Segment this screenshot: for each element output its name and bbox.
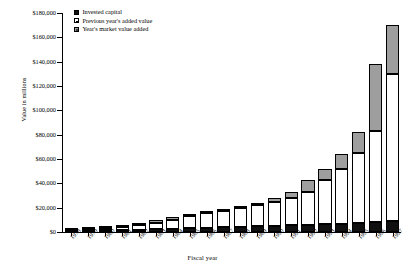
- y-axis-tick-label: $60,000: [4, 156, 56, 162]
- bar-segment-prev-1993: [318, 180, 331, 225]
- bar-1993: [318, 13, 331, 232]
- bar-segment-added-1996: [369, 64, 382, 131]
- bar-segment-prev-1989: [251, 205, 264, 226]
- bar-segment-invested-1980: [99, 230, 112, 232]
- bar-1986: [200, 13, 213, 232]
- y-axis-tick-label: $20,000: [4, 204, 56, 210]
- bar-1989: [251, 13, 264, 232]
- y-axis-tick-label: $40,000: [4, 180, 56, 186]
- bar-segment-invested-1986: [200, 228, 213, 232]
- legend-label: Invested capital: [82, 9, 122, 15]
- plot-area: [63, 13, 401, 232]
- y-axis-tick-label: $140,000: [4, 58, 56, 64]
- bar-segment-added-1995: [352, 132, 365, 153]
- bar-segment-added-1993: [318, 169, 331, 179]
- bar-1991: [285, 13, 298, 232]
- bar-segment-invested-1978: [65, 230, 78, 232]
- bar-segment-invested-1988: [234, 227, 247, 232]
- bar-segment-prev-1987: [217, 211, 230, 228]
- bar-segment-prev-1985: [183, 216, 196, 228]
- y-axis-tick-label: $180,000: [4, 10, 56, 16]
- x-axis-title: Fiscal year: [0, 254, 405, 261]
- bar-1992: [301, 13, 314, 232]
- bar-1980: [99, 13, 112, 232]
- bar-segment-invested-1994: [335, 224, 348, 232]
- bar-segment-invested-1993: [318, 224, 331, 232]
- bar-segment-invested-1984: [166, 229, 179, 232]
- y-axis-tick-label: $0: [4, 229, 56, 235]
- bar-1978: [65, 13, 78, 232]
- bar-segment-prev-1991: [285, 198, 298, 225]
- bar-1988: [234, 13, 247, 232]
- bar-segment-invested-1991: [285, 225, 298, 232]
- legend-swatch-added-icon: [74, 27, 79, 32]
- chart-legend: Invested capitalPrevious year's added va…: [74, 8, 152, 34]
- y-axis-tick-label: $160,000: [4, 34, 56, 40]
- bar-segment-invested-1990: [268, 226, 281, 232]
- legend-item-prev: Previous year's added value: [74, 17, 152, 26]
- legend-item-added: Year's market value added: [74, 25, 152, 34]
- bar-1994: [335, 13, 348, 232]
- bar-1982: [132, 13, 145, 232]
- bar-segment-added-1997: [386, 25, 399, 74]
- bar-segment-invested-1992: [301, 225, 314, 232]
- bar-1981: [116, 13, 129, 232]
- bar-segment-invested-1987: [217, 227, 230, 232]
- bar-segment-prev-1984: [166, 220, 179, 229]
- bar-1985: [183, 13, 196, 232]
- bar-1996: [369, 13, 382, 232]
- bar-segment-invested-1979: [82, 230, 95, 232]
- legend-swatch-invested-icon: [74, 10, 79, 15]
- bar-segment-invested-1989: [251, 226, 264, 232]
- bar-segment-prev-1994: [335, 169, 348, 224]
- bar-segment-prev-1995: [352, 153, 365, 223]
- y-axis-tick-label: $80,000: [4, 131, 56, 137]
- legend-item-invested: Invested capital: [74, 8, 152, 17]
- legend-label: Previous year's added value: [82, 18, 152, 24]
- bar-segment-added-1994: [335, 154, 348, 169]
- bar-segment-prev-1992: [301, 192, 314, 225]
- legend-label: Year's market value added: [82, 26, 148, 32]
- bar-segment-invested-1995: [352, 223, 365, 232]
- y-axis-tick-label: $120,000: [4, 83, 56, 89]
- bar-segment-invested-1985: [183, 228, 196, 232]
- bar-segment-invested-1981: [116, 230, 129, 232]
- bar-1987: [217, 13, 230, 232]
- bar-segment-added-1992: [301, 180, 314, 191]
- legend-swatch-prev-icon: [74, 18, 79, 23]
- bar-segment-prev-1997: [386, 74, 399, 221]
- bar-1983: [149, 13, 162, 232]
- bar-segment-invested-1983: [149, 229, 162, 232]
- bar-segment-prev-1990: [268, 202, 281, 226]
- y-axis-tick-labels: $180,000$160,000$140,000$120,000$100,000…: [3, 0, 56, 271]
- bar-1990: [268, 13, 281, 232]
- bar-segment-invested-1982: [132, 230, 145, 232]
- y-axis-tick-label: $100,000: [4, 107, 56, 113]
- bar-1979: [82, 13, 95, 232]
- bar-segment-prev-1996: [369, 131, 382, 222]
- bar-1995: [352, 13, 365, 232]
- bar-segment-invested-1996: [369, 222, 382, 232]
- bar-segment-invested-1997: [386, 221, 399, 232]
- bar-segment-prev-1986: [200, 213, 213, 228]
- bar-segment-prev-1988: [234, 208, 247, 227]
- bar-1984: [166, 13, 179, 232]
- bar-1997: [386, 13, 399, 232]
- chart-figure: Value in millions $180,000$160,000$140,0…: [0, 0, 405, 271]
